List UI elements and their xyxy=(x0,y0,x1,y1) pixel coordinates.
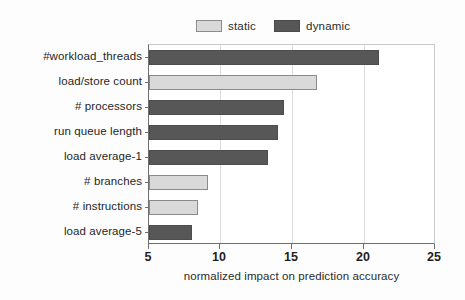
plot-area xyxy=(148,44,435,244)
y-axis-label-2: # processors xyxy=(0,94,142,119)
y-axis-label-0: #workload_threads xyxy=(0,44,142,69)
bar-series-group xyxy=(149,45,434,243)
x-tick-label-20: 20 xyxy=(356,250,370,264)
x-tick-label-15: 15 xyxy=(284,250,298,264)
x-tick-label-10: 10 xyxy=(212,250,226,264)
x-tick-10 xyxy=(219,244,220,249)
bar-row xyxy=(149,45,379,70)
y-axis-label-1: load/store count xyxy=(0,69,142,94)
bar-row xyxy=(149,195,198,220)
bar-load-average-5 xyxy=(149,225,192,240)
legend-swatch-dynamic-icon xyxy=(274,20,300,32)
bar-workload-threads xyxy=(149,50,379,65)
bar-run-queue-length xyxy=(149,125,278,140)
y-axis-label-4: load average-1 xyxy=(0,144,142,169)
x-tick-25 xyxy=(434,244,435,249)
legend-label-static: static xyxy=(228,20,256,32)
x-tick-label-25: 25 xyxy=(427,250,441,264)
y-axis-label-6: # instructions xyxy=(0,194,142,219)
y-axis-category-labels: #workload_threads load/store count # pro… xyxy=(0,44,144,244)
bar-row xyxy=(149,70,317,95)
legend-swatch-static-icon xyxy=(196,20,222,32)
bar-chart-figure: static dynamic #workload_threads load/st… xyxy=(0,0,465,300)
x-tick-label-5: 5 xyxy=(145,250,152,264)
bar-row xyxy=(149,145,268,170)
y-axis-label-3: run queue length xyxy=(0,119,142,144)
bar-instructions xyxy=(149,200,198,215)
y-axis-label-5: # branches xyxy=(0,169,142,194)
bar-load-average-1 xyxy=(149,150,268,165)
legend-label-dynamic: dynamic xyxy=(306,20,350,32)
bar-row xyxy=(149,95,284,120)
bar-load-store-count xyxy=(149,75,317,90)
legend-entry-static: static xyxy=(196,20,256,32)
x-tick-15 xyxy=(291,244,292,249)
bar-branches xyxy=(149,175,208,190)
bar-row xyxy=(149,120,278,145)
legend-entry-dynamic: dynamic xyxy=(274,20,350,32)
chart-legend: static dynamic xyxy=(196,16,350,36)
y-axis-label-7: load average-5 xyxy=(0,219,142,244)
bar-processors xyxy=(149,100,284,115)
bar-row xyxy=(149,220,192,245)
bar-row xyxy=(149,170,208,195)
x-tick-20 xyxy=(363,244,364,249)
x-axis-title: normalized impact on prediction accuracy xyxy=(148,270,435,282)
x-tick-5 xyxy=(148,244,149,249)
x-axis: 5 10 15 20 25 xyxy=(148,244,435,270)
